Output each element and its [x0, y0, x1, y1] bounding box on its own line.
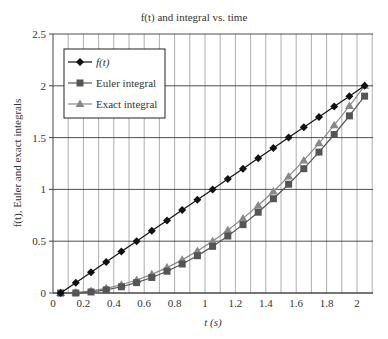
data-point	[285, 134, 293, 142]
data-point	[133, 237, 141, 245]
data-point	[361, 93, 368, 100]
data-point	[194, 252, 201, 259]
x-tick-label: 0.6	[137, 297, 151, 309]
y-tick-label: 1.5	[32, 132, 46, 144]
y-tick-label: 0	[41, 287, 47, 299]
y-tick-label: 2	[41, 80, 47, 92]
data-point	[239, 165, 247, 173]
y-tick-label: 1	[41, 183, 47, 195]
data-point	[223, 226, 232, 234]
data-point	[224, 175, 232, 183]
data-point	[254, 154, 262, 162]
data-point	[255, 209, 262, 216]
y-axis-label: f(t), Euler and exact integrals	[11, 99, 24, 228]
y-tick-label: 2.5	[32, 28, 46, 40]
data-point	[178, 206, 186, 214]
x-tick-label: 0.8	[168, 297, 182, 309]
data-point	[133, 279, 140, 286]
legend-label: Exact integral	[96, 98, 157, 110]
chart-title: f(t) and integral vs. time	[141, 11, 248, 24]
data-point	[315, 113, 323, 121]
x-tick-label: 0.2	[77, 297, 91, 309]
x-axis-label: t (s)	[204, 316, 222, 329]
data-point	[330, 103, 338, 111]
x-tick-label: 0.4	[107, 297, 121, 309]
data-point	[346, 112, 353, 119]
data-point	[72, 290, 79, 297]
data-point	[269, 144, 277, 152]
legend-label: f(t)	[96, 56, 110, 69]
x-tick-label: 2	[354, 297, 360, 309]
data-point	[118, 283, 125, 290]
data-point	[193, 196, 201, 204]
legend-marker	[77, 80, 84, 87]
data-point	[103, 286, 110, 293]
x-tick-label: 1	[202, 297, 208, 309]
x-tick-label: 1.6	[289, 297, 303, 309]
x-tick-label: 1.8	[320, 297, 334, 309]
x-tick-label: 1.2	[229, 297, 243, 309]
chart-svg: 00.511.522.500.20.40.60.811.21.41.61.82f…	[0, 0, 388, 339]
data-point	[164, 268, 171, 275]
data-point	[285, 181, 292, 188]
data-point	[148, 227, 156, 235]
chart: 00.511.522.500.20.40.60.811.21.41.61.82f…	[0, 0, 388, 339]
data-point	[102, 258, 110, 266]
data-point	[300, 165, 307, 172]
data-point	[316, 149, 323, 156]
x-tick-label: 1.4	[259, 297, 273, 309]
data-point	[331, 131, 338, 138]
data-point	[179, 260, 186, 267]
data-point	[209, 185, 217, 193]
data-point	[88, 288, 95, 295]
data-point	[117, 248, 125, 256]
data-point	[300, 123, 308, 131]
data-point	[345, 92, 353, 100]
legend-label: Euler integral	[96, 77, 156, 89]
data-point	[72, 279, 80, 287]
data-point	[87, 268, 95, 276]
data-point	[270, 195, 277, 202]
data-point	[209, 243, 216, 250]
x-tick-label: 0	[50, 297, 56, 309]
data-point	[148, 274, 155, 281]
y-tick-label: 0.5	[32, 235, 46, 247]
data-point	[240, 221, 247, 228]
data-point	[163, 216, 171, 224]
data-point	[224, 233, 231, 240]
